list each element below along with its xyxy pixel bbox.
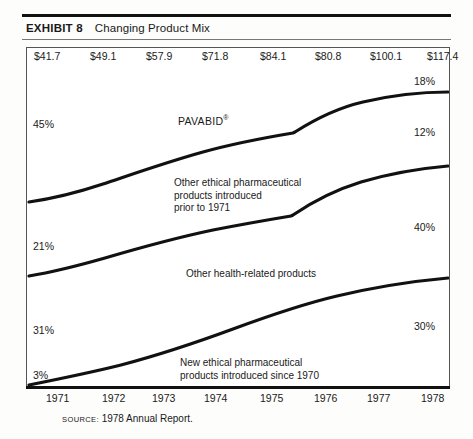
band-label-other-ethical: Other ethical pharmaceutical products in…	[174, 177, 301, 215]
percent-label-right-1: 12%	[414, 126, 435, 138]
band-label-other-ethical-line3: prior to 1971	[174, 202, 301, 215]
band-label-other-ethical-line2: products introduced	[174, 190, 301, 203]
year-label-6: 1977	[367, 392, 390, 404]
percent-label-left-1: 21%	[33, 240, 54, 252]
band-label-health-related-line1: Other health-related products	[186, 268, 316, 281]
percent-label-right-2: 40%	[414, 221, 435, 233]
exhibit-header: EXHIBIT 8 Changing Product Mix	[26, 19, 210, 37]
band-label-health-related: Other health-related products	[186, 268, 316, 281]
stacked-area-plot	[27, 48, 449, 387]
registered-trademark-icon: ®	[223, 114, 228, 121]
year-label-4: 1975	[260, 392, 283, 404]
band-label-other-ethical-line1: Other ethical pharmaceutical	[174, 177, 301, 190]
source-keyword: SOURCE:	[62, 415, 99, 424]
header-bottom-rule	[22, 39, 451, 40]
exhibit-page: EXHIBIT 8 Changing Product Mix $41.7$49.…	[0, 0, 473, 439]
band-label-new-ethical-line2: products introduced since 1970	[180, 370, 319, 383]
band-label-new-ethical-line1: New ethical pharmaceutical	[180, 357, 319, 370]
percent-label-right-0: 18%	[414, 75, 435, 87]
year-label-0: 1971	[46, 392, 69, 404]
year-label-3: 1974	[204, 392, 227, 404]
header-top-rule	[22, 14, 451, 17]
year-label-7: 1978	[421, 392, 444, 404]
band-label-new-ethical: New ethical pharmaceutical products intr…	[180, 357, 319, 382]
percent-label-left-0: 45%	[33, 118, 54, 130]
percent-label-left-3: 3%	[33, 369, 48, 381]
percent-label-left-2: 31%	[33, 324, 54, 336]
band-label-pavabid: PAVABID®	[178, 112, 229, 127]
year-axis-row: 19711972197319741975197619771978	[26, 392, 450, 408]
source-text: 1978 Annual Report.	[102, 413, 193, 424]
chart-baseline	[26, 386, 450, 389]
year-label-2: 1973	[152, 392, 175, 404]
exhibit-title: Changing Product Mix	[95, 22, 210, 34]
source-note: SOURCE: 1978 Annual Report.	[62, 413, 193, 424]
percent-label-right-3: 30%	[414, 320, 435, 332]
exhibit-label: EXHIBIT 8	[26, 22, 83, 34]
year-label-5: 1976	[314, 392, 337, 404]
band-label-pavabid-text: PAVABID	[178, 115, 223, 127]
year-label-1: 1972	[102, 392, 125, 404]
